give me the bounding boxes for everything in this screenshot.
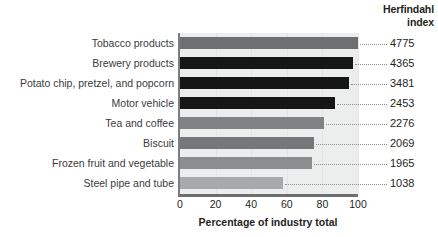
index-value: 3481 — [390, 73, 434, 93]
leader-line — [314, 164, 387, 166]
bar-row: Frozen fruit and vegetable1965 — [0, 153, 438, 173]
value-column-header-line2: index — [362, 16, 434, 29]
bar-row: Motor vehicle2453 — [0, 93, 438, 113]
index-value: 2276 — [390, 113, 434, 133]
bar-row: Brewery products4365 — [0, 53, 438, 73]
category-label: Brewery products — [0, 53, 174, 73]
leader-line — [360, 44, 387, 46]
x-tick-label: 0 — [165, 198, 195, 210]
bar — [180, 77, 349, 89]
category-label: Motor vehicle — [0, 93, 174, 113]
index-value: 2453 — [390, 93, 434, 113]
x-tick-label: 100 — [343, 198, 373, 210]
bar — [180, 37, 358, 49]
x-axis-title: Percentage of industry total — [178, 216, 358, 228]
category-label: Tea and coffee — [0, 113, 174, 133]
x-tick-label: 20 — [201, 198, 231, 210]
category-label: Potato chip, pretzel, and popcorn — [0, 73, 174, 93]
x-tick-label: 60 — [272, 198, 302, 210]
category-label: Frozen fruit and vegetable — [0, 153, 174, 173]
bar-row: Biscuit2069 — [0, 133, 438, 153]
bar-row: Potato chip, pretzel, and popcorn3481 — [0, 73, 438, 93]
bar — [180, 97, 335, 109]
bar — [180, 137, 314, 149]
x-tick-label: 40 — [236, 198, 266, 210]
leader-line — [326, 124, 387, 126]
bar-row: Tea and coffee2276 — [0, 113, 438, 133]
leader-line — [355, 64, 387, 66]
herfindahl-index-bar-chart: Herfindahl index Tobacco products4775Bre… — [0, 0, 438, 237]
bar — [180, 57, 353, 69]
value-column-header: Herfindahl index — [362, 3, 434, 28]
index-value: 1965 — [390, 153, 434, 173]
bar — [180, 157, 312, 169]
index-value: 4775 — [390, 33, 434, 53]
leader-line — [316, 144, 388, 146]
category-label: Biscuit — [0, 133, 174, 153]
leader-line — [285, 184, 387, 186]
index-value: 2069 — [390, 133, 434, 153]
index-value: 1038 — [390, 173, 434, 193]
bar — [180, 177, 283, 189]
x-axis-line — [178, 194, 358, 197]
value-column-header-line1: Herfindahl — [362, 3, 434, 16]
bar — [180, 117, 324, 129]
bar-row: Steel pipe and tube1038 — [0, 173, 438, 193]
category-label: Tobacco products — [0, 33, 174, 53]
index-value: 4365 — [390, 53, 434, 73]
bar-row: Tobacco products4775 — [0, 33, 438, 53]
x-tick-label: 80 — [307, 198, 337, 210]
leader-line — [351, 84, 387, 86]
leader-line — [337, 104, 387, 106]
category-label: Steel pipe and tube — [0, 173, 174, 193]
